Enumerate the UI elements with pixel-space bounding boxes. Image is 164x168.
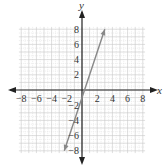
y-axis-label: y xyxy=(78,0,84,11)
y-tick-label: 4 xyxy=(74,54,79,65)
x-tick-label: 2 xyxy=(95,93,100,104)
x-tick-label: −8 xyxy=(16,93,27,104)
y-axis-arrow-down-icon xyxy=(79,157,85,165)
x-tick-label: 6 xyxy=(125,93,130,104)
y-tick-label: −8 xyxy=(68,145,79,156)
x-tick-label: −6 xyxy=(31,93,42,104)
x-tick-label: −4 xyxy=(46,93,57,104)
y-axis-arrow-up-icon xyxy=(79,10,85,18)
coordinate-plane: −8−6−4−224688642−2−4−6−8 x y xyxy=(0,0,164,168)
x-axis-arrow-left-icon xyxy=(8,87,16,93)
y-tick-label: −4 xyxy=(68,115,79,126)
x-tick-label: 8 xyxy=(140,93,145,104)
y-tick-label: −2 xyxy=(68,100,79,111)
y-tick-label: 8 xyxy=(74,24,79,35)
x-axis-label: x xyxy=(156,84,162,96)
x-tick-label: 4 xyxy=(110,93,115,104)
y-tick-label: 2 xyxy=(74,69,79,80)
y-tick-label: 6 xyxy=(74,39,79,50)
y-tick-label: −6 xyxy=(68,130,79,141)
line-arrowhead-icon xyxy=(101,29,106,35)
